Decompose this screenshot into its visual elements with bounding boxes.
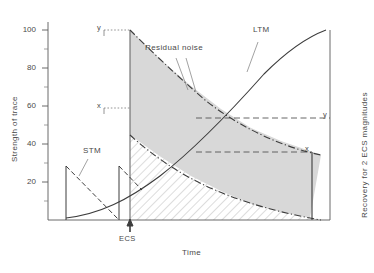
stm-leader bbox=[79, 159, 88, 176]
left-lower-marker-x: x bbox=[97, 101, 101, 110]
stm-label: STM bbox=[83, 146, 101, 155]
chart-canvas bbox=[0, 0, 374, 273]
y-tick-label-80: 80 bbox=[12, 63, 36, 72]
y-axis-major-ticks bbox=[42, 30, 48, 182]
ecs-arrow-icon bbox=[127, 219, 133, 232]
x-axis-title: Time bbox=[182, 248, 201, 257]
y-tick-label-100: 100 bbox=[12, 25, 36, 34]
right-upper-marker-y: y bbox=[323, 110, 327, 119]
right-lower-marker-x: x bbox=[305, 144, 309, 153]
y-axis-title: Strength of trace bbox=[10, 96, 19, 162]
chart-figure: 100 80 60 40 20 Strength of trace Recove… bbox=[0, 0, 374, 273]
stm-decay-1 bbox=[66, 166, 119, 220]
ltm-label: LTM bbox=[253, 25, 270, 34]
y2-axis-title: Recovery for 2 ECS magnitudes bbox=[360, 92, 369, 218]
y-axis-minor-ticks bbox=[44, 49, 48, 201]
ltm-leader bbox=[247, 42, 258, 72]
y-tick-label-20: 20 bbox=[12, 177, 36, 186]
left-reference-lines bbox=[104, 30, 130, 114]
left-upper-marker-y: y bbox=[97, 23, 101, 32]
ecs-label: ECS bbox=[119, 234, 136, 243]
residual-noise-label: Residual noise bbox=[145, 43, 203, 52]
